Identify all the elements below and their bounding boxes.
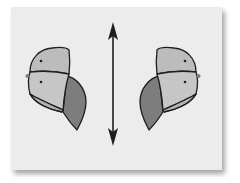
right-shape-dot-bottom: [184, 81, 187, 84]
right-shape-dot-top: [184, 60, 187, 63]
right-shape-nub: [197, 74, 201, 78]
mirror-diagram: [0, 0, 240, 183]
left-shape-dot-bottom: [40, 81, 43, 84]
right-shape-upper-region: [156, 48, 196, 74]
left-shape-nub: [26, 74, 30, 78]
left-shape-upper-region: [30, 48, 70, 74]
left-shape-dot-top: [40, 60, 43, 63]
left-shape: [26, 48, 87, 130]
right-shape: [140, 48, 201, 130]
mirror-arrow: [108, 22, 118, 146]
